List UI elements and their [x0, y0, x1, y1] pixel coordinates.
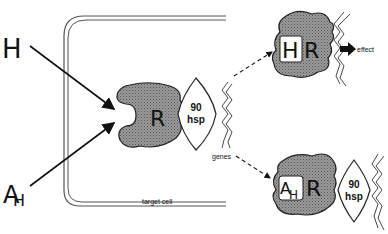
svg-text:R: R	[304, 38, 319, 63]
svg-text:H: H	[289, 188, 298, 202]
svg-text:hsp: hsp	[187, 114, 205, 125]
diagram-canvas: target cell H A H R 90 hsp genes H R eff…	[0, 0, 388, 234]
genes-label: genes	[212, 153, 232, 161]
svg-text:H: H	[282, 38, 299, 63]
effect-arrow-icon	[340, 42, 356, 56]
hsp90-unbound: 90 hsp	[178, 78, 216, 150]
svg-text:H: H	[13, 191, 25, 210]
activation-arrow	[234, 52, 272, 76]
hormone-arrow	[30, 46, 114, 109]
svg-text:90: 90	[348, 179, 360, 190]
dna-helix	[222, 82, 232, 148]
blocked-arrow	[236, 156, 270, 178]
antihormone-label: A H	[3, 181, 25, 210]
hormone-label: H	[2, 34, 22, 64]
svg-text:hsp: hsp	[345, 191, 363, 202]
hsp90-bound: 90 hsp	[338, 160, 370, 222]
effect-label: effect	[357, 46, 374, 53]
target-cell-label: target cell	[142, 198, 173, 206]
receptor-hormone-complex: H R	[272, 11, 333, 77]
antihormone-arrow	[30, 123, 114, 186]
receptor-label: R	[150, 106, 165, 131]
dna-helix-blocked	[372, 154, 384, 230]
svg-text:90: 90	[190, 102, 202, 113]
receptor-unbound: R	[117, 83, 182, 147]
svg-text:R: R	[306, 176, 321, 201]
receptor-antihormone-complex: A H R	[273, 154, 336, 215]
